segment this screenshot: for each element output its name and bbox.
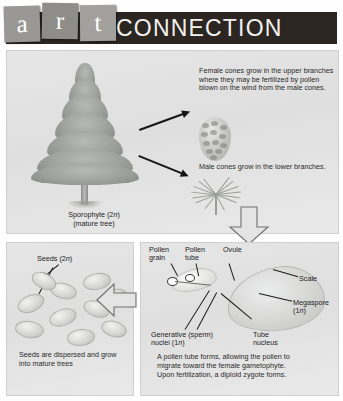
leader-ovule xyxy=(229,263,236,280)
label-ovule: Ovule xyxy=(223,246,242,254)
leader-pollen-grain xyxy=(171,263,178,276)
male-cone-description: Male cones grow in the lower branches. xyxy=(199,163,335,172)
seed xyxy=(15,290,47,316)
letter-tile-a: a xyxy=(4,6,41,43)
seed xyxy=(99,318,128,341)
seed-dispersal-caption: Seeds are dispersed and grow into mature… xyxy=(19,351,123,368)
sporophyte-label-line2: (mature tree) xyxy=(39,220,149,228)
art-connection-figure: CONNECTION a r t Sporophyte (2n) (mature… xyxy=(0,0,343,401)
header-title: CONNECTION xyxy=(116,14,283,42)
seeds-label: Seeds (2n) xyxy=(37,255,72,263)
tree-tier xyxy=(31,163,139,185)
panel-sporophyte-and-cones: Sporophyte (2n) (mature tree) xyxy=(6,50,339,234)
seed xyxy=(14,319,45,340)
female-cone-illustration xyxy=(193,111,237,165)
art-connection-header: CONNECTION a r t xyxy=(0,0,343,46)
seed xyxy=(47,305,79,330)
pollen-tube-shape xyxy=(185,274,195,282)
label-scale: Scale xyxy=(299,275,317,283)
female-cone-description: Female cones grow in the upper branches … xyxy=(199,67,335,93)
label-tube-nucleus-line2: nucleus xyxy=(253,339,278,347)
tree-base-grass xyxy=(67,201,103,209)
flow-arrow-down-icon xyxy=(228,206,270,246)
letter-tile-t: t xyxy=(80,5,116,41)
label-generative-nuclei-line2: nuclei (1n) xyxy=(151,339,185,347)
leader-generative-nuclei-2 xyxy=(197,292,218,330)
letter-tile-r: r xyxy=(42,3,79,40)
seed xyxy=(66,328,96,348)
label-megaspore-line2: (1n) xyxy=(293,307,306,315)
panel-seed-dispersal: Seeds (2n) Seeds are dispersed and grow … xyxy=(6,242,134,396)
pollen-tube-caption-line3: Upon fertilization, a diploid zygote for… xyxy=(157,371,337,380)
flow-arrow-left-icon xyxy=(96,282,138,318)
label-pollen-tube-line2: tube xyxy=(185,254,199,262)
arrow-to-female-cone xyxy=(139,110,192,129)
conifer-tree-illustration xyxy=(25,63,145,213)
arrow-to-male-cone xyxy=(139,155,191,176)
label-pollen-grain-line2: grain xyxy=(149,254,165,262)
panel-pollen-tube-and-ovule: Pollen grain Pollen tube Ovule Scale Meg… xyxy=(140,242,339,396)
